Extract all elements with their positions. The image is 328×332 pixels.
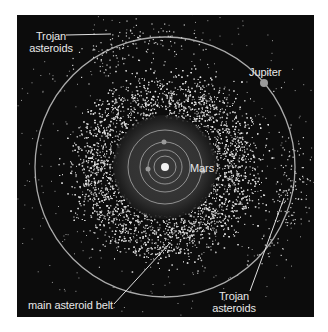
- trojan-bottom-label-line2: asteroids: [210, 302, 258, 314]
- trojan-top-label-line2: asteroids: [26, 42, 76, 54]
- sun-icon: [161, 163, 169, 171]
- trojan-bottom-label-line1: Trojan: [210, 290, 258, 302]
- diagram-canvas: [17, 15, 314, 317]
- trojan-top-label: Trojan asteroids: [26, 30, 76, 54]
- trojan-top-label-line1: Trojan: [26, 30, 76, 42]
- main-belt-label: main asteroid belt: [28, 299, 113, 311]
- inner-planet-icon: [146, 167, 151, 172]
- solar-system-diagram: Trojan asteroids Jupiter Mars main aster…: [17, 15, 314, 317]
- trojan-bottom-leader-line: [250, 198, 284, 291]
- earth-icon: [162, 140, 167, 145]
- jupiter-icon: [260, 79, 268, 87]
- jupiter-label: Jupiter: [249, 66, 281, 78]
- trojan-bottom-label: Trojan asteroids: [210, 290, 258, 314]
- mars-label: Mars: [190, 162, 214, 174]
